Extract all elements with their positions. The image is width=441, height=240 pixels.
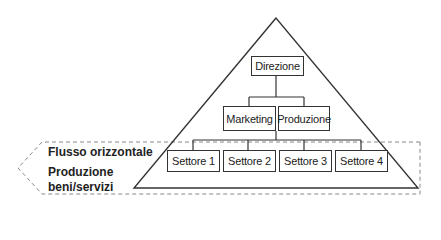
node-marketing: Marketing xyxy=(223,106,276,131)
flow-label: Flusso orizzontale xyxy=(48,145,153,160)
node-direzione: Direzione xyxy=(251,56,304,76)
node-settore-1: Settore 1 xyxy=(167,150,220,172)
production-label: Produzione beni/servizi xyxy=(48,165,128,195)
node-settore-3: Settore 3 xyxy=(279,150,332,172)
node-produzione: Produzione xyxy=(278,106,330,131)
node-settore-4: Settore 4 xyxy=(335,150,388,172)
node-settore-2: Settore 2 xyxy=(223,150,276,172)
